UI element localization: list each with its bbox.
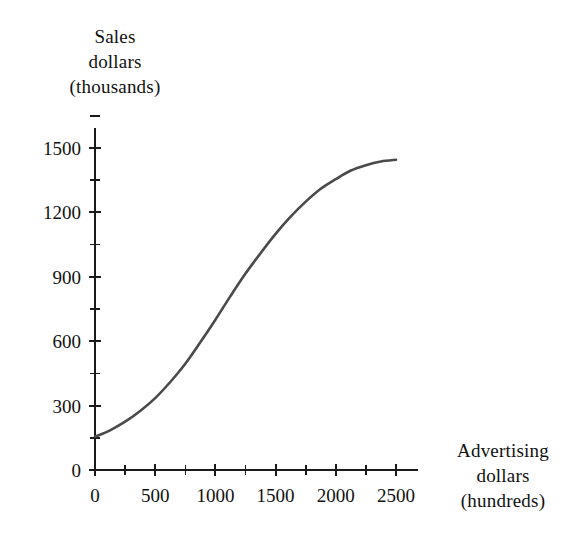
y-tick-label: 0 — [23, 461, 81, 480]
x-tick-label: 500 — [123, 486, 187, 505]
x-tick-label: 2000 — [304, 486, 368, 505]
data-curve — [95, 160, 396, 437]
plot-area — [0, 0, 579, 544]
x-tick-label: 1500 — [244, 486, 308, 505]
y-tick-label: 1500 — [23, 139, 81, 158]
y-tick-label: 300 — [23, 397, 81, 416]
axis-lines — [95, 128, 418, 470]
x-tick-label: 1000 — [183, 486, 247, 505]
x-tick-label: 2500 — [364, 486, 428, 505]
y-tick-label: 600 — [23, 332, 81, 351]
y-tick-label: 900 — [23, 268, 81, 287]
x-tick-label: 0 — [63, 486, 127, 505]
chart-figure: Sales dollars (thousands) Advertising do… — [0, 0, 579, 544]
data-curve-group — [95, 160, 396, 437]
y-tick-label: 1200 — [23, 203, 81, 222]
